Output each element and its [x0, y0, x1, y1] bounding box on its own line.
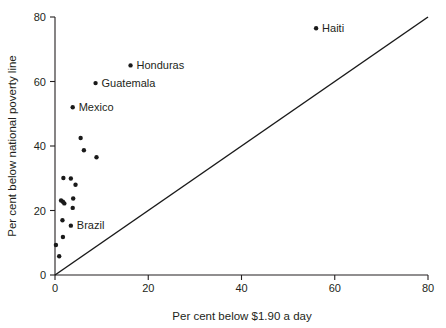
- y-tick-label: 80: [34, 11, 46, 23]
- data-point: [128, 63, 132, 67]
- plot-canvas: 020406080 020406080 HaitiHondurasGuatema…: [0, 0, 446, 328]
- data-point: [69, 223, 73, 227]
- data-point: [82, 148, 86, 152]
- y-tick-label: 60: [34, 76, 46, 88]
- y-tick-label: 40: [34, 140, 46, 152]
- data-point-label: Mexico: [79, 101, 114, 113]
- identity-reference-line: [55, 17, 428, 275]
- data-point: [71, 206, 75, 210]
- x-tick-label: 80: [422, 282, 434, 294]
- data-point: [78, 136, 82, 140]
- data-point: [314, 26, 318, 30]
- y-axis-ticks: 020406080: [34, 11, 55, 281]
- data-point: [61, 235, 65, 239]
- x-tick-label: 60: [329, 282, 341, 294]
- scatter-plot-figure: 020406080 020406080 HaitiHondurasGuatema…: [0, 0, 446, 328]
- data-point: [73, 183, 77, 187]
- data-point-label: Guatemala: [102, 77, 157, 89]
- data-point: [61, 176, 65, 180]
- y-axis-title: Per cent below national poverty line: [6, 55, 18, 237]
- point-labels-group: HaitiHondurasGuatemalaMexicoBrazil: [77, 22, 344, 231]
- x-tick-label: 0: [52, 282, 58, 294]
- x-tick-label: 20: [142, 282, 154, 294]
- data-point: [54, 243, 58, 247]
- data-point: [71, 196, 75, 200]
- data-point: [69, 176, 73, 180]
- data-point-label: Haiti: [322, 22, 344, 34]
- y-tick-label: 20: [34, 205, 46, 217]
- data-point: [93, 81, 97, 85]
- data-point-label: Honduras: [137, 59, 185, 71]
- data-point: [71, 105, 75, 109]
- data-point: [57, 254, 61, 258]
- x-tick-label: 40: [235, 282, 247, 294]
- y-tick-label: 0: [40, 269, 46, 281]
- x-axis-title: Per cent below $1.90 a day: [172, 310, 312, 322]
- x-axis-ticks: 020406080: [52, 275, 434, 294]
- data-point: [60, 218, 64, 222]
- data-point-label: Brazil: [77, 219, 105, 231]
- data-point: [94, 155, 98, 159]
- data-point: [62, 201, 66, 205]
